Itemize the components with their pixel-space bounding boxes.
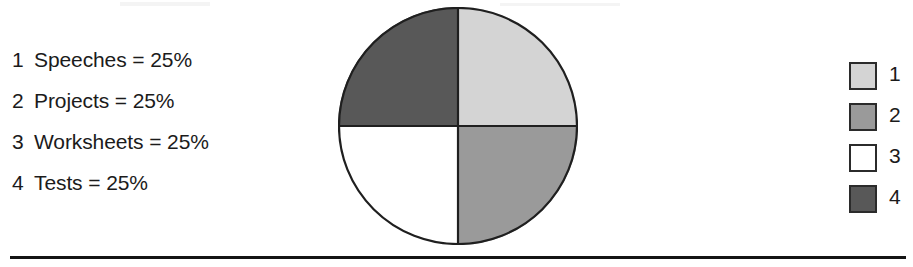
legend-entry: 2 (849, 103, 913, 144)
legend-entry: 1 (849, 62, 913, 103)
legend-swatch (849, 103, 877, 131)
legend-label: 1 (889, 59, 901, 89)
list-item-index: 3 (12, 130, 34, 154)
legend-swatch (849, 62, 877, 90)
pie-chart (338, 7, 578, 245)
legend-swatch (849, 185, 877, 213)
legend-swatch (849, 144, 877, 172)
list-item-text: Speeches = 25% (34, 48, 192, 72)
list-item: 3 Worksheets = 25% (12, 130, 312, 171)
scan-artifact (500, 3, 620, 6)
list-item-index: 1 (12, 48, 34, 72)
list-item-text: Tests = 25% (34, 171, 148, 195)
list-item: 2 Projects = 25% (12, 89, 312, 130)
list-item-index: 4 (12, 171, 34, 195)
legend: 1 2 3 4 (849, 62, 913, 226)
pie-chart-svg (338, 7, 578, 245)
scan-artifact (120, 2, 210, 6)
figure-canvas: 1 Speeches = 25% 2 Projects = 25% 3 Work… (0, 0, 913, 267)
legend-label: 4 (889, 182, 901, 212)
legend-label: 3 (889, 141, 901, 171)
legend-entry: 3 (849, 144, 913, 185)
list-item: 4 Tests = 25% (12, 171, 312, 212)
list-item-text: Worksheets = 25% (34, 130, 209, 154)
item-list: 1 Speeches = 25% 2 Projects = 25% 3 Work… (12, 48, 312, 212)
list-item-text: Projects = 25% (34, 89, 174, 113)
list-item: 1 Speeches = 25% (12, 48, 312, 89)
horizontal-rule (10, 256, 906, 259)
legend-entry: 4 (849, 185, 913, 226)
legend-label: 2 (889, 100, 901, 130)
list-item-index: 2 (12, 89, 34, 113)
